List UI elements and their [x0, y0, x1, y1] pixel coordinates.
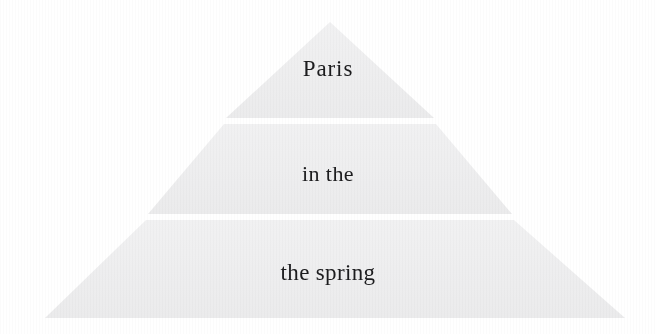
pyramid-tier-2-label: in the [0, 161, 656, 187]
pyramid-diagram: Paris in the the spring [0, 0, 656, 334]
pyramid-tier-3-label: the spring [0, 260, 656, 286]
pyramid-tier-1-label: Paris [0, 56, 656, 82]
